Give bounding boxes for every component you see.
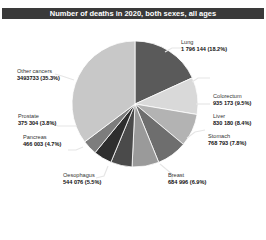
label-pancreas-name: Pancreas (23, 134, 61, 141)
label-prostate-name: Prostate (18, 113, 56, 120)
label-oesophagus-name: Oesophagus (63, 172, 101, 179)
label-oesophagus: Oesophagus 544 076 (5.5%) (63, 172, 101, 186)
label-other-cancers-name: Other cancers (17, 68, 60, 75)
label-lung: Lung 1 796 144 (18.2%) (181, 39, 227, 53)
label-colorectum-value: 935 173 (9.5%) (213, 100, 251, 107)
label-pancreas-value: 466 003 (4.7%) (23, 141, 61, 148)
label-other-cancers: Other cancers 3493733 (35.3%) (17, 68, 60, 82)
label-pancreas: Pancreas 466 003 (4.7%) (23, 134, 61, 148)
label-colorectum-name: Colorectum (213, 93, 251, 100)
label-prostate: Prostate 375 304 (3.8%) (18, 113, 56, 127)
label-lung-name: Lung (181, 39, 227, 46)
label-liver: Liver 830 180 (8.4%) (213, 113, 251, 127)
label-breast-value: 684 996 (6.9%) (168, 179, 206, 186)
label-colorectum: Colorectum 935 173 (9.5%) (213, 93, 251, 107)
label-stomach: Stomach 768 793 (7.8%) (208, 133, 246, 147)
label-liver-name: Liver (213, 113, 251, 120)
label-stomach-name: Stomach (208, 133, 246, 140)
label-oesophagus-value: 544 076 (5.5%) (63, 179, 101, 186)
label-breast-name: Breast (168, 172, 206, 179)
label-prostate-value: 375 304 (3.8%) (18, 120, 56, 127)
label-other-cancers-value: 3493733 (35.3%) (17, 75, 60, 82)
label-stomach-value: 768 793 (7.8%) (208, 140, 246, 147)
label-breast: Breast 684 996 (6.9%) (168, 172, 206, 186)
pie-slices (72, 41, 198, 167)
label-lung-value: 1 796 144 (18.2%) (181, 46, 227, 53)
label-liver-value: 830 180 (8.4%) (213, 120, 251, 127)
